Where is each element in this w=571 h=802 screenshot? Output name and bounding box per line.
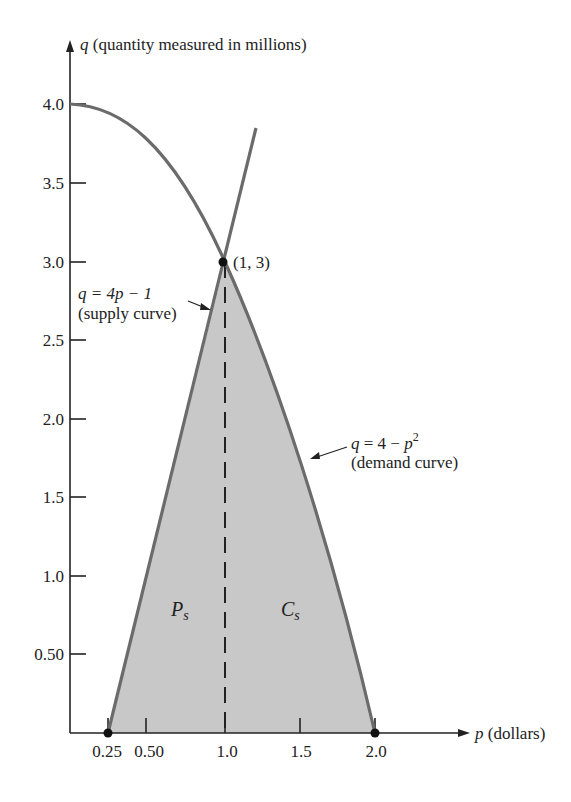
x-axis-label: p (dollars) xyxy=(474,724,545,743)
demand-equation: q = 4 − p2 xyxy=(351,430,419,453)
supply-equation: q = 4p − 1 xyxy=(78,284,152,303)
svg-text:1.0: 1.0 xyxy=(43,567,64,586)
y-axis-label: q (quantity measured in millions) xyxy=(80,35,307,54)
demand-curve-label: (demand curve) xyxy=(351,453,458,472)
svg-text:3.5: 3.5 xyxy=(43,174,64,193)
svg-text:1.5: 1.5 xyxy=(290,742,311,761)
y-tick-labels: 4.0 3.5 3.0 2.5 2.0 1.5 1.0 0.50 xyxy=(34,95,64,664)
svg-text:2.5: 2.5 xyxy=(43,331,64,350)
svg-text:3.0: 3.0 xyxy=(43,253,64,272)
svg-text:2.0: 2.0 xyxy=(43,410,64,429)
demand-intercept-point xyxy=(371,729,380,738)
x-tick-labels: 0.25 0.50 1.0 1.5 2.0 xyxy=(92,742,387,761)
svg-text:4.0: 4.0 xyxy=(43,95,64,114)
equilibrium-point xyxy=(219,258,228,267)
svg-text:0.25: 0.25 xyxy=(92,742,122,761)
svg-text:0.50: 0.50 xyxy=(34,645,64,664)
svg-text:1.0: 1.0 xyxy=(216,742,237,761)
supply-curve-label: (supply curve) xyxy=(78,304,177,323)
surplus-region xyxy=(108,262,375,733)
svg-text:1.5: 1.5 xyxy=(43,488,64,507)
supply-intercept-point xyxy=(104,729,113,738)
svg-text:0.50: 0.50 xyxy=(134,742,164,761)
demand-annotation-arrow-icon xyxy=(310,447,347,459)
y-ticks xyxy=(70,104,86,654)
svg-text:2.0: 2.0 xyxy=(365,742,386,761)
chart-canvas: q (quantity measured in millions) p (dol… xyxy=(0,0,571,802)
y-axis-arrow-icon xyxy=(66,40,74,52)
x-axis-arrow-icon xyxy=(458,729,470,737)
equilibrium-label: (1, 3) xyxy=(233,253,270,272)
supply-annotation-arrow-icon xyxy=(188,301,211,310)
